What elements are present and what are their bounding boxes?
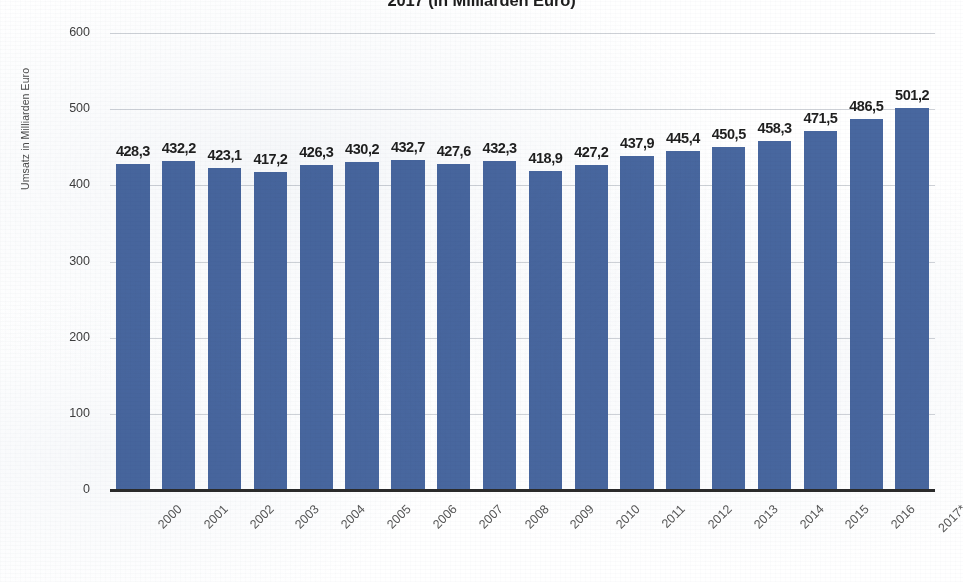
bar-value-label: 417,2 <box>253 151 287 167</box>
x-axis-tick-label: 2004 <box>338 502 368 532</box>
bar[interactable] <box>162 161 195 490</box>
x-axis-tick-label: 2012 <box>705 502 735 532</box>
x-axis-tick-label: 2009 <box>568 502 598 532</box>
x-axis-tick-label: 2002 <box>247 502 277 532</box>
x-axis-tick-label: 2000 <box>155 502 185 532</box>
bar-value-label: 450,5 <box>712 126 746 142</box>
bar-value-label: 445,4 <box>666 130 700 146</box>
bar-value-label: 471,5 <box>803 110 837 126</box>
x-axis-tick-label: 2008 <box>522 502 552 532</box>
bar-value-label: 427,6 <box>437 143 471 159</box>
bar[interactable] <box>895 108 928 490</box>
bar[interactable] <box>666 151 699 490</box>
bar[interactable] <box>620 156 653 490</box>
bar-value-label: 432,2 <box>162 140 196 156</box>
bar-value-label: 432,7 <box>391 139 425 155</box>
bar[interactable] <box>529 171 562 490</box>
bar-value-label: 486,5 <box>849 98 883 114</box>
bar[interactable] <box>254 172 287 490</box>
y-axis-tick-label: 500 <box>46 101 90 115</box>
x-axis-tick-label: 2016 <box>888 502 918 532</box>
bar[interactable] <box>850 119 883 490</box>
bar-value-label: 430,2 <box>345 141 379 157</box>
bar-value-label: 426,3 <box>299 144 333 160</box>
bar-chart: 2017 (in Milliarden Euro) Umsatz in Mill… <box>0 0 963 582</box>
bar-value-label: 428,3 <box>116 143 150 159</box>
bar[interactable] <box>483 161 516 490</box>
chart-title: 2017 (in Milliarden Euro) <box>0 0 963 10</box>
gridline <box>110 33 935 34</box>
bar[interactable] <box>300 165 333 490</box>
bar[interactable] <box>437 164 470 490</box>
x-axis-tick-label: 2001 <box>201 502 231 532</box>
bar-value-label: 458,3 <box>758 120 792 136</box>
bar[interactable] <box>345 162 378 490</box>
x-axis-tick-label: 2005 <box>384 502 414 532</box>
y-axis-tick-label: 200 <box>46 330 90 344</box>
y-axis-title: Umsatz in Milliarden Euro <box>19 10 31 190</box>
x-axis-tick-label: 2014 <box>797 502 827 532</box>
x-axis-tick-label: 2017* <box>936 502 963 535</box>
x-axis-tick-label: 2010 <box>613 502 643 532</box>
x-axis-tick-label: 2006 <box>430 502 460 532</box>
bar[interactable] <box>758 141 791 490</box>
x-axis-tick-label: 2003 <box>293 502 323 532</box>
y-axis-tick-label: 100 <box>46 406 90 420</box>
y-axis-tick-label: 600 <box>46 25 90 39</box>
y-axis-tick-label: 300 <box>46 254 90 268</box>
bar[interactable] <box>116 164 149 490</box>
x-axis-line <box>110 489 935 492</box>
bar-value-label: 427,2 <box>574 144 608 160</box>
plot-area: 428,3432,2423,1417,2426,3430,2432,7427,6… <box>110 33 935 490</box>
x-axis-tick-label: 2007 <box>476 502 506 532</box>
bar-value-label: 418,9 <box>528 150 562 166</box>
bar[interactable] <box>391 160 424 490</box>
y-axis-tick-label: 0 <box>46 482 90 496</box>
x-axis-tick-label: 2013 <box>751 502 781 532</box>
bar-value-label: 437,9 <box>620 135 654 151</box>
bar-value-label: 501,2 <box>895 87 929 103</box>
bar[interactable] <box>712 147 745 490</box>
y-axis-tick-label: 400 <box>46 177 90 191</box>
x-axis-tick-label: 2011 <box>659 502 688 531</box>
bar-value-label: 432,3 <box>483 140 517 156</box>
bar-value-label: 423,1 <box>208 147 242 163</box>
x-axis-tick-label: 2015 <box>843 502 873 532</box>
bar[interactable] <box>575 165 608 490</box>
bar[interactable] <box>804 131 837 490</box>
bar[interactable] <box>208 168 241 490</box>
